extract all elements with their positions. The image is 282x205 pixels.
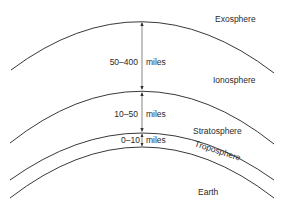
range-arrow-50-400 [140, 22, 143, 90]
atmosphere-diagram: 50–400 miles 10–50 miles 0–10 miles Exos… [0, 0, 282, 205]
range-unit-10-50: miles [146, 109, 166, 119]
range-value-0-10: 0–10 [121, 135, 140, 145]
range-value-10-50: 10–50 [114, 109, 138, 119]
range-unit-50-400: miles [146, 57, 166, 67]
layer-label-ionosphere: Ionosphere [213, 75, 256, 85]
range-arrow-0-10 [141, 134, 144, 147]
layer-label-stratosphere: Stratosphere [193, 126, 242, 136]
layer-label-troposphere: Troposphere [193, 138, 242, 162]
layer-label-exosphere: Exosphere [215, 14, 256, 24]
layer-label-earth: Earth [198, 187, 219, 197]
exosphere-boundary-curve [11, 22, 274, 73]
range-arrow-10-50 [140, 92, 143, 132]
range-value-50-400: 50–400 [110, 57, 139, 67]
range-unit-0-10: miles [146, 135, 166, 145]
